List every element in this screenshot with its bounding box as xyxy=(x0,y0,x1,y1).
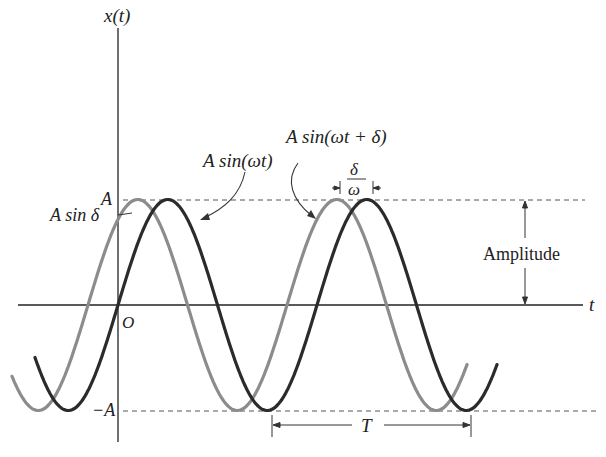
amplitude-label: Amplitude xyxy=(483,244,560,264)
pointer-arrow-light xyxy=(291,163,316,219)
pointer-arrow-dark xyxy=(200,172,245,220)
x-axis-label: t xyxy=(589,294,595,315)
period-label: T xyxy=(361,415,373,436)
shift-label-denominator: ω xyxy=(348,180,360,199)
y-axis-label: x(t) xyxy=(103,5,130,27)
phase-value-label: A sin δ xyxy=(49,205,100,225)
amplitude-bottom-label: −A xyxy=(92,400,116,420)
sinusoid-phase-diagram: x(t) t O A −A A sin δ A sin(ωt) A sin(ωt… xyxy=(0,0,606,457)
amplitude-top-label: A xyxy=(100,189,113,209)
origin-label: O xyxy=(122,313,134,332)
curve-dark-label: A sin(ωt) xyxy=(201,150,273,172)
curve-light-label: A sin(ωt + δ) xyxy=(284,126,387,148)
diagram-canvas: x(t) t O A −A A sin δ A sin(ωt) A sin(ωt… xyxy=(0,0,606,457)
shift-label-numerator: δ xyxy=(350,160,359,179)
